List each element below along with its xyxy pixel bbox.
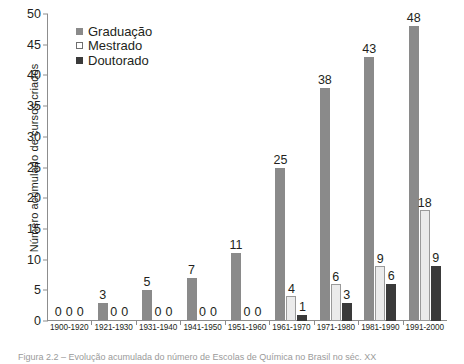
y-axis-tick-label: 10 bbox=[7, 253, 41, 267]
bar-mestrado: 18 bbox=[420, 210, 430, 321]
bar-mestrado: 4 bbox=[286, 296, 296, 321]
bar-graduao: 48 bbox=[409, 26, 419, 321]
bar-slot: 25 bbox=[275, 14, 285, 321]
bar-slot: 0 bbox=[153, 14, 163, 321]
y-axis-tick-label: 0 bbox=[7, 314, 41, 328]
bar-slot: 11 bbox=[231, 14, 241, 321]
bar-slot: 0 bbox=[64, 14, 74, 321]
bar-value-label: 0 bbox=[166, 306, 173, 319]
x-axis-tick-label: 1941-1950 bbox=[180, 323, 224, 332]
legend-item-doutorado: Doutorado bbox=[76, 53, 152, 68]
y-axis-tick-label: 25 bbox=[7, 161, 41, 175]
bar-slot: 48 bbox=[409, 14, 419, 321]
y-axis-tick-label: 5 bbox=[7, 283, 41, 297]
bar-slot: 0 bbox=[53, 14, 63, 321]
bar-doutorado: 6 bbox=[386, 284, 396, 321]
bar-value-label: 0 bbox=[155, 306, 162, 319]
bar-value-label: 43 bbox=[362, 43, 376, 56]
bar-graduao: 43 bbox=[364, 57, 374, 321]
bar-value-label: 3 bbox=[343, 289, 350, 302]
x-axis-tick-label: 1981-1990 bbox=[358, 323, 402, 332]
bar-value-label: 0 bbox=[121, 306, 128, 319]
legend-swatch-graduacao bbox=[76, 28, 83, 35]
bar-slot: 6 bbox=[331, 14, 341, 321]
legend-label-doutorado: Doutorado bbox=[88, 53, 149, 68]
bar-slot: 9 bbox=[431, 14, 441, 321]
x-axis-tick-label: 1991-2000 bbox=[403, 323, 447, 332]
bar-mestrado: 6 bbox=[331, 284, 341, 321]
bar-slot: 7 bbox=[187, 14, 197, 321]
bar-value-label: 9 bbox=[377, 253, 384, 266]
bar-value-label: 0 bbox=[77, 306, 84, 319]
bar-value-label: 4 bbox=[288, 283, 295, 296]
figure-caption: Figura 2.2 – Evolução acumulada do númer… bbox=[18, 352, 458, 362]
bar-graduao: 25 bbox=[275, 168, 285, 322]
legend-swatch-mestrado bbox=[76, 42, 83, 49]
bar-value-label: 48 bbox=[407, 12, 421, 25]
y-axis-tick-label: 15 bbox=[7, 222, 41, 236]
bar-value-label: 0 bbox=[199, 306, 206, 319]
x-axis-tick-label: 1961-1970 bbox=[269, 323, 313, 332]
x-axis-tick-label: 1951-1960 bbox=[225, 323, 269, 332]
bar-value-label: 18 bbox=[418, 197, 432, 210]
bar-graduao: 3 bbox=[98, 303, 108, 321]
bar-graduao: 5 bbox=[142, 290, 152, 321]
bar-graduao: 38 bbox=[320, 88, 330, 321]
bar-doutorado: 9 bbox=[431, 266, 441, 321]
bar-slot: 4 bbox=[286, 14, 296, 321]
legend-label-graduacao: Graduação bbox=[88, 24, 152, 39]
bar-slot: 0 bbox=[242, 14, 252, 321]
bar-graduao: 11 bbox=[231, 253, 241, 321]
bar-value-label: 0 bbox=[66, 306, 73, 319]
bar-doutorado: 3 bbox=[342, 303, 352, 321]
bar-slot: 0 bbox=[164, 14, 174, 321]
bar-value-label: 9 bbox=[432, 252, 439, 265]
chart-legend: Graduação Mestrado Doutorado bbox=[76, 24, 152, 68]
y-axis-title: Número acumulado de cursos criados bbox=[28, 28, 40, 288]
legend-item-mestrado: Mestrado bbox=[76, 39, 152, 54]
bar-value-label: 0 bbox=[55, 306, 62, 319]
bar-value-label: 38 bbox=[318, 74, 332, 87]
bar-slot: 18 bbox=[420, 14, 430, 321]
bar-chart: Número acumulado de cursos criados 05101… bbox=[0, 0, 464, 364]
bar-mestrado: 9 bbox=[375, 266, 385, 321]
x-axis-tick-label: 1971-1980 bbox=[314, 323, 358, 332]
bar-value-label: 25 bbox=[273, 154, 287, 167]
bar-value-label: 1 bbox=[299, 301, 306, 314]
bar-slot: 1 bbox=[297, 14, 307, 321]
bar-slot: 0 bbox=[198, 14, 208, 321]
bar-group: 3863 bbox=[314, 14, 358, 321]
x-axis-labels: 1900-19201921-19301931-19401941-19501951… bbox=[47, 323, 447, 332]
bar-value-label: 6 bbox=[332, 271, 339, 284]
bar-slot: 6 bbox=[386, 14, 396, 321]
legend-label-mestrado: Mestrado bbox=[88, 38, 142, 53]
y-axis-tick-label: 50 bbox=[7, 7, 41, 21]
legend-item-graduacao: Graduação bbox=[76, 24, 152, 39]
bar-group: 1100 bbox=[225, 14, 269, 321]
bar-slot: 0 bbox=[253, 14, 263, 321]
y-axis-tick-label: 20 bbox=[7, 191, 41, 205]
bar-value-label: 11 bbox=[229, 239, 242, 252]
legend-swatch-doutorado bbox=[76, 57, 83, 64]
y-axis-tick-label: 30 bbox=[7, 130, 41, 144]
bar-value-label: 6 bbox=[388, 270, 395, 283]
x-axis-tick-label: 1931-1940 bbox=[136, 323, 180, 332]
bar-group: 700 bbox=[180, 14, 224, 321]
x-axis-tick-label: 1900-1920 bbox=[47, 323, 91, 332]
bar-value-label: 0 bbox=[254, 306, 261, 319]
bar-graduao: 7 bbox=[187, 278, 197, 321]
bar-value-label: 0 bbox=[210, 306, 217, 319]
bar-group: 4396 bbox=[358, 14, 402, 321]
bar-value-label: 5 bbox=[144, 276, 151, 289]
bar-group: 48189 bbox=[403, 14, 447, 321]
y-axis-tick-label: 40 bbox=[7, 68, 41, 82]
bar-slot: 0 bbox=[209, 14, 219, 321]
bar-slot: 43 bbox=[364, 14, 374, 321]
y-axis-tick-label: 35 bbox=[7, 99, 41, 113]
bar-value-label: 0 bbox=[110, 306, 117, 319]
bar-slot: 38 bbox=[320, 14, 330, 321]
x-axis-tick-label: 1921-1930 bbox=[91, 323, 135, 332]
bar-group: 2541 bbox=[269, 14, 313, 321]
bar-slot: 9 bbox=[375, 14, 385, 321]
y-axis-tick-label: 45 bbox=[7, 38, 41, 52]
